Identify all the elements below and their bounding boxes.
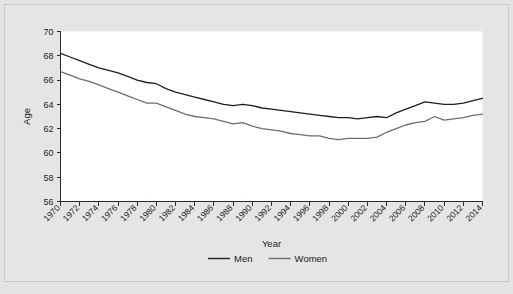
line-chart-plot: 5658606264666870197019721974197619781980… xyxy=(0,0,513,294)
x-tick-label-1986: 1986 xyxy=(195,203,216,224)
y-tick-label-58: 58 xyxy=(43,173,53,183)
x-tick-label-2008: 2008 xyxy=(406,203,427,224)
plot-background xyxy=(61,32,483,202)
x-tick-label-1996: 1996 xyxy=(291,203,312,224)
x-tick-label-1998: 1998 xyxy=(310,203,331,224)
x-tick-label-2014: 2014 xyxy=(463,203,484,224)
y-tick-label-62: 62 xyxy=(43,124,53,134)
x-tick-label-1980: 1980 xyxy=(137,203,158,224)
x-tick-label-1992: 1992 xyxy=(252,203,273,224)
x-tick-label-1994: 1994 xyxy=(272,203,293,224)
x-tick-label-1974: 1974 xyxy=(80,203,101,224)
x-tick-label-2012: 2012 xyxy=(444,203,465,224)
y-tick-label-64: 64 xyxy=(43,100,53,110)
x-tick-label-2000: 2000 xyxy=(329,203,350,224)
x-tick-label-1984: 1984 xyxy=(176,203,197,224)
y-tick-label-60: 60 xyxy=(43,148,53,158)
x-axis-title: Year xyxy=(262,238,281,249)
y-tick-label-70: 70 xyxy=(43,27,53,37)
x-tick-label-1978: 1978 xyxy=(118,203,139,224)
y-tick-label-66: 66 xyxy=(43,75,53,85)
y-tick-label-68: 68 xyxy=(43,51,53,61)
x-tick-label-2010: 2010 xyxy=(425,203,446,224)
x-tick-label-1976: 1976 xyxy=(99,203,120,224)
y-axis-title: Age xyxy=(21,108,32,125)
legend-label-women: Women xyxy=(295,253,328,264)
chart-figure: 5658606264666870197019721974197619781980… xyxy=(0,0,513,294)
x-tick-label-1990: 1990 xyxy=(233,203,254,224)
x-tick-label-1982: 1982 xyxy=(157,203,178,224)
x-tick-label-2004: 2004 xyxy=(368,203,389,224)
x-tick-label-2002: 2002 xyxy=(348,203,369,224)
x-tick-label-1972: 1972 xyxy=(61,203,82,224)
x-tick-label-2006: 2006 xyxy=(387,203,408,224)
legend-label-men: Men xyxy=(234,253,252,264)
x-tick-label-1988: 1988 xyxy=(214,203,235,224)
